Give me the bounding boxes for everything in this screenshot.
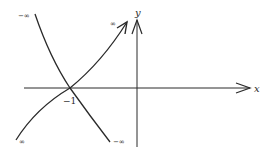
decreasing-curve: [35, 14, 110, 142]
y-axis-label: y: [134, 7, 141, 18]
diagram-canvas: x y −∞ −∞ ∞ ∞ −1: [0, 0, 272, 154]
decreasing-curve-start-label: −∞: [18, 12, 30, 20]
increasing-curve-start-label: ∞: [19, 138, 25, 146]
y-axis: [132, 20, 142, 147]
increasing-curve-end-label: ∞: [110, 20, 116, 28]
x-axis-label: x: [254, 83, 260, 94]
increasing-curve: [16, 22, 127, 140]
intersection-label: −1: [63, 96, 76, 106]
decreasing-curve-end-label: −∞: [113, 138, 125, 146]
